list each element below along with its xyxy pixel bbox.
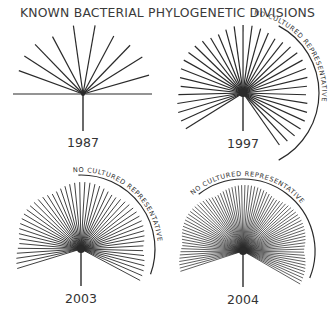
lineage-ray <box>81 195 112 249</box>
lineage-ray <box>35 44 83 94</box>
lineage-ray <box>17 249 81 269</box>
lineage-ray <box>186 93 243 129</box>
lineage-ray <box>81 216 139 249</box>
year-label-2003: 2003 <box>65 291 97 306</box>
panel-2003: NO CULTURED REPRESENTATIVE <box>16 166 163 286</box>
year-label-1987: 1987 <box>67 135 99 150</box>
phylogenetic-fans-diagram: NO CULTURED REPRESENTATIVE NO CULTURED R… <box>0 0 335 317</box>
panel-2004: NO CULTURED REPRESENTATIVE <box>179 170 315 287</box>
lineage-ray <box>178 93 243 112</box>
root-node <box>77 245 85 253</box>
root-node <box>239 89 247 97</box>
lineage-ray <box>243 29 261 93</box>
lineage-ray <box>24 56 83 94</box>
lineage-ray <box>243 251 305 268</box>
panel-1987 <box>13 25 152 131</box>
lineage-ray <box>181 93 243 121</box>
lineage-ray <box>243 251 303 278</box>
lineage-ray <box>226 30 243 93</box>
year-label-2004: 2004 <box>227 292 259 307</box>
root-node <box>239 247 247 255</box>
lineage-ray <box>16 249 81 258</box>
lineage-ray <box>24 214 81 249</box>
lineage-ray <box>19 71 83 94</box>
year-label-1997: 1997 <box>227 136 259 151</box>
root-node <box>81 92 85 96</box>
lineage-ray <box>243 251 302 281</box>
lineage-ray <box>81 249 140 280</box>
